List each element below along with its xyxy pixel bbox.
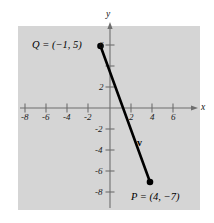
y-tick-label-neg2: -2	[95, 125, 103, 134]
y-tick-label-2: 2	[99, 83, 104, 92]
y-tick-label-neg4: -4	[95, 146, 103, 155]
y-axis-label: y	[106, 10, 110, 20]
point-label-p: P = (4, −7)	[131, 192, 179, 203]
x-tick-label-neg2: -2	[84, 113, 92, 122]
x-tick-label-2: 2	[129, 113, 134, 122]
vector-segment-v	[101, 46, 151, 182]
x-tick-label-neg8: -8	[21, 113, 29, 122]
y-tick-label-neg8: -8	[95, 188, 103, 197]
y-tick-label-neg6: -6	[95, 167, 103, 176]
x-tick-label-neg4: -4	[63, 113, 71, 122]
plot-graphics	[0, 0, 214, 223]
x-tick-label-4: 4	[150, 113, 155, 122]
point-marker-p	[147, 179, 154, 186]
y-tick-label-6: 6	[99, 41, 104, 50]
point-label-q: Q = (−1, 5)	[32, 40, 82, 51]
x-tick-label-6: 6	[171, 113, 176, 122]
vector-label-v: v	[137, 138, 142, 148]
vector-plot-figure: -8 -6 -4 -2 2 4 6 6 2 -2 -4 -6 -8 y x Q …	[0, 0, 214, 223]
y-axis	[106, 22, 115, 208]
x-tick-label-neg6: -6	[42, 113, 50, 122]
x-axis-label: x	[201, 103, 205, 113]
